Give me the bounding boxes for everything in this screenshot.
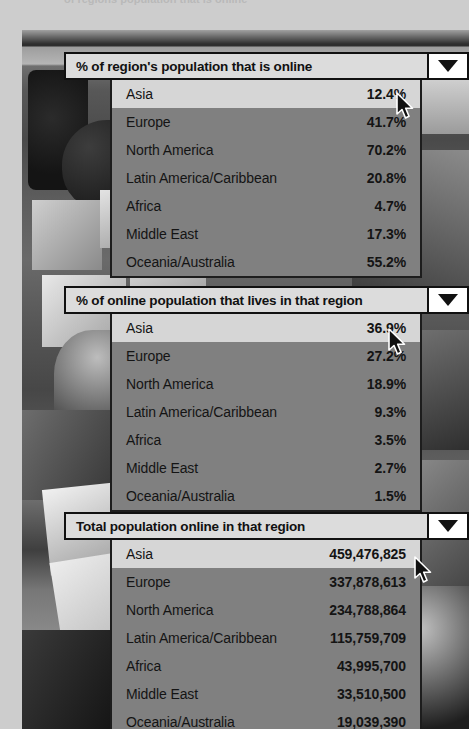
option-region-label: Latin America/Caribbean (126, 170, 277, 186)
option-region-label: Middle East (126, 686, 198, 702)
list-item[interactable]: Latin America/Caribbean 115,759,709 (112, 624, 420, 652)
option-region-label: Middle East (126, 460, 198, 476)
option-value: 337,878,613 (329, 574, 406, 590)
option-region-label: Africa (126, 432, 161, 448)
list-item[interactable]: Asia 36.9% (112, 314, 420, 342)
option-region-label: Asia (126, 320, 153, 336)
dropdown-header[interactable]: % of region's population that is online (64, 52, 429, 80)
option-region-label: Europe (126, 348, 171, 364)
list-item[interactable]: Oceania/Australia 1.5% (112, 482, 420, 510)
option-region-label: North America (126, 376, 213, 392)
dropdown-option-list[interactable]: Asia 459,476,825 Europe 337,878,613 Nort… (110, 540, 422, 729)
option-value: 19,039,390 (337, 714, 406, 729)
option-value: 20.8% (367, 170, 406, 186)
option-region-label: Asia (126, 546, 153, 562)
option-region-label: Oceania/Australia (126, 714, 235, 729)
dropdown-header-row[interactable]: % of region's population that is online (64, 52, 469, 80)
list-item[interactable]: Africa 4.7% (112, 192, 420, 220)
chevron-down-icon (437, 519, 459, 533)
option-value: 55.2% (367, 254, 406, 270)
option-region-label: Africa (126, 658, 161, 674)
dropdown-toggle-button[interactable] (429, 286, 469, 314)
dropdown-header-label: % of region's population that is online (76, 59, 312, 74)
option-value: 4.7% (374, 198, 406, 214)
option-value: 9.3% (374, 404, 406, 420)
option-region-label: North America (126, 602, 213, 618)
chevron-down-icon (437, 59, 459, 73)
chevron-down-icon (437, 293, 459, 307)
dropdown-header-row[interactable]: % of online population that lives in tha… (64, 286, 469, 314)
option-region-label: Africa (126, 198, 161, 214)
list-item[interactable]: Middle East 2.7% (112, 454, 420, 482)
dropdown-toggle-button[interactable] (429, 512, 469, 540)
list-item[interactable]: Oceania/Australia 19,039,390 (112, 708, 420, 729)
option-region-label: Asia (126, 86, 153, 102)
option-value: 234,788,864 (329, 602, 406, 618)
option-value: 18.9% (367, 376, 406, 392)
option-region-label: Middle East (126, 226, 198, 242)
option-value: 115,759,709 (330, 630, 406, 646)
list-item[interactable]: Middle East 17.3% (112, 220, 420, 248)
option-value: 27.2% (367, 348, 406, 364)
option-value: 1.5% (374, 488, 406, 504)
dropdown-option-list[interactable]: Asia 36.9% Europe 27.2% North America 18… (110, 314, 422, 512)
screenshot-frame: of regions population that is online % o… (0, 0, 469, 729)
dropdown-toggle-button[interactable] (429, 52, 469, 80)
option-value: 12.4% (367, 86, 406, 102)
option-value: 43,995,700 (337, 658, 406, 674)
option-value: 36.9% (367, 320, 406, 336)
list-item[interactable]: Latin America/Caribbean 20.8% (112, 164, 420, 192)
option-region-label: Latin America/Caribbean (126, 630, 277, 646)
dropdown-header[interactable]: % of online population that lives in tha… (64, 286, 429, 314)
list-item[interactable]: Asia 12.4% (112, 80, 420, 108)
dropdown-pct-online-population-by-region: % of online population that lives in tha… (64, 286, 469, 512)
list-item[interactable]: North America 234,788,864 (112, 596, 420, 624)
list-item[interactable]: Middle East 33,510,500 (112, 680, 420, 708)
list-item[interactable]: Oceania/Australia 55.2% (112, 248, 420, 276)
dropdown-header-row[interactable]: Total population online in that region (64, 512, 469, 540)
dropdown-total-population-online: Total population online in that region A… (64, 512, 469, 729)
option-region-label: North America (126, 142, 213, 158)
dropdown-header[interactable]: Total population online in that region (64, 512, 429, 540)
option-region-label: Latin America/Caribbean (126, 404, 277, 420)
list-item[interactable]: Africa 3.5% (112, 426, 420, 454)
list-item[interactable]: Asia 459,476,825 (112, 540, 420, 568)
list-item[interactable]: Europe 337,878,613 (112, 568, 420, 596)
list-item[interactable]: Africa 43,995,700 (112, 652, 420, 680)
list-item[interactable]: Europe 41.7% (112, 108, 420, 136)
list-item[interactable]: North America 70.2% (112, 136, 420, 164)
option-value: 41.7% (367, 114, 406, 130)
option-value: 33,510,500 (337, 686, 406, 702)
dropdown-header-label: % of online population that lives in tha… (76, 293, 363, 308)
dropdown-header-label: Total population online in that region (76, 519, 305, 534)
option-value: 2.7% (374, 460, 406, 476)
dropdown-option-list[interactable]: Asia 12.4% Europe 41.7% North America 70… (110, 80, 422, 278)
list-item[interactable]: North America 18.9% (112, 370, 420, 398)
list-item[interactable]: Europe 27.2% (112, 342, 420, 370)
option-value: 17.3% (367, 226, 406, 242)
option-region-label: Europe (126, 114, 171, 130)
option-value: 70.2% (367, 142, 406, 158)
option-region-label: Oceania/Australia (126, 254, 235, 270)
option-region-label: Europe (126, 574, 171, 590)
option-value: 459,476,825 (329, 546, 406, 562)
option-value: 3.5% (374, 432, 406, 448)
list-item[interactable]: Latin America/Caribbean 9.3% (112, 398, 420, 426)
dropdown-pct-region-population-online: % of region's population that is online … (64, 52, 469, 278)
cropped-top-text: of regions population that is online (0, 0, 469, 10)
option-region-label: Oceania/Australia (126, 488, 235, 504)
